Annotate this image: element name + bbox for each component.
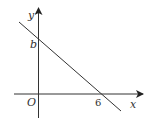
y-axis-label: y xyxy=(27,9,35,22)
x-axis-label: x xyxy=(130,98,137,111)
x-intercept-label: 6 xyxy=(95,97,101,108)
origin-label: O xyxy=(27,96,36,109)
y-intercept-label: b xyxy=(30,38,37,51)
coordinate-diagram: y x O b 6 xyxy=(0,0,149,127)
